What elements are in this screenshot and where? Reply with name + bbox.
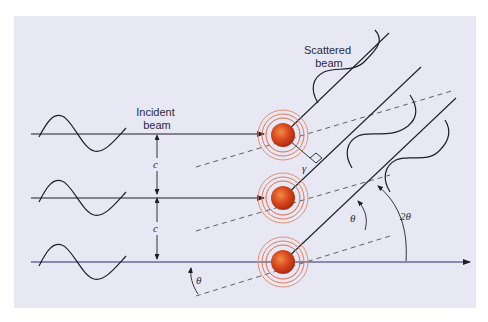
spacing-label-top: c — [153, 158, 158, 170]
bragg-diagram: c c γ — [0, 0, 488, 322]
atom-top — [258, 110, 308, 160]
atom-middle — [258, 173, 308, 223]
two-theta-label: 2θ — [400, 210, 412, 222]
atom-bottom — [258, 237, 308, 287]
spacing-label-bottom: c — [153, 222, 158, 234]
theta-label-bottom: θ — [196, 274, 202, 286]
theta-label-mid: θ — [350, 212, 356, 224]
panel-background — [14, 16, 476, 308]
gamma-label: γ — [302, 162, 307, 174]
